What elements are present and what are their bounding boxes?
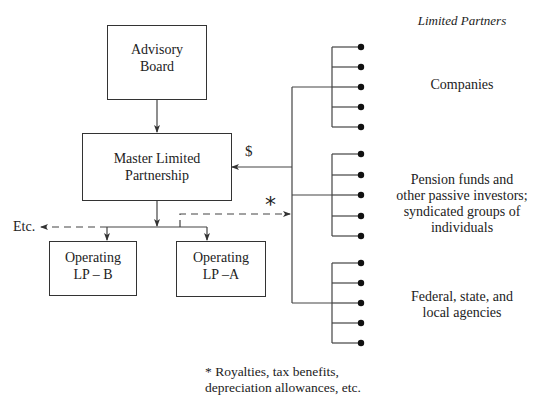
operating-lp-b-box: Operating LP – B (49, 241, 137, 296)
dollar-label: $ (245, 143, 253, 159)
lp-b-line2: LP – B (65, 266, 121, 283)
advisory-line1: Advisory (131, 41, 183, 58)
partner-dots (358, 44, 364, 346)
lp-b-line1: Operating (65, 249, 121, 266)
lp-a-line2: LP –A (193, 266, 249, 283)
mlp-line2: Partnership (114, 167, 201, 184)
mlp-box: Master Limited Partnership (82, 133, 232, 201)
operating-lp-a-box: Operating LP –A (176, 241, 266, 297)
pension-funds-label: Pension funds and other passive investor… (385, 172, 534, 236)
advisory-board-box: Advisory Board (107, 25, 207, 100)
advisory-line2: Board (131, 58, 183, 75)
limited-partners-header: Limited Partners (400, 13, 524, 29)
lp-a-line1: Operating (193, 249, 249, 266)
footnote: * Royalties, tax benefits, depreciation … (205, 364, 361, 396)
etc-label: Etc. (13, 219, 35, 235)
companies-label: Companies (395, 77, 529, 93)
mlp-line1: Master Limited (114, 150, 201, 167)
asterisk-label: * (265, 197, 276, 213)
government-agencies-label: Federal, state, and local agencies (395, 289, 529, 321)
